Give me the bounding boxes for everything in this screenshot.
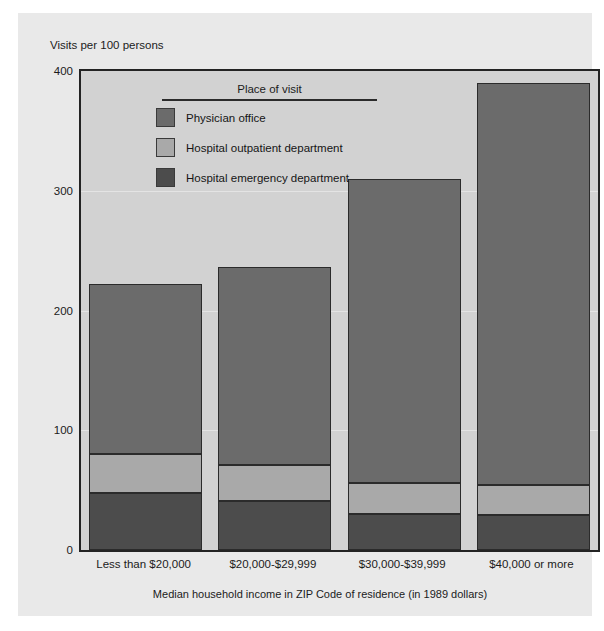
bar-segment [89, 284, 202, 454]
y-axis-tick: 400 [25, 71, 73, 83]
x-axis-tick-label: Less than $20,000 [79, 558, 208, 570]
bar-segment [348, 483, 461, 514]
bar-segment [348, 179, 461, 483]
legend-divider [162, 99, 377, 101]
chart-page: Visits per 100 persons 0100200300400 Pla… [0, 0, 604, 631]
y-axis-tick: 200 [25, 311, 73, 323]
chart-paper-panel: Visits per 100 persons 0100200300400 Pla… [18, 13, 592, 616]
x-axis-tick-label: $30,000-$39,999 [338, 558, 467, 570]
bar-segment [218, 501, 331, 550]
x-axis-title: Median household income in ZIP Code of r… [18, 588, 604, 600]
bar-segment [218, 465, 331, 501]
bar-stack [348, 179, 461, 550]
x-axis-tick-label: $40,000 or more [467, 558, 596, 570]
bar-segment [218, 267, 331, 465]
bar-stack [89, 284, 202, 550]
x-axis-tick-label: $20,000-$29,999 [208, 558, 337, 570]
y-axis-tick-label: 200 [25, 305, 73, 317]
y-axis-tick-label: 100 [25, 424, 73, 436]
bar-segment [477, 515, 590, 550]
plot-area: Place of visit Physician officeHospital … [79, 69, 600, 552]
legend-item: Hospital outpatient department [156, 138, 436, 157]
legend-item-label: Hospital outpatient department [186, 142, 343, 154]
legend-swatch [156, 138, 175, 157]
y-axis-tick: 300 [25, 191, 73, 203]
legend-item: Hospital emergency department [156, 168, 436, 187]
y-axis-tick-label: 300 [25, 185, 73, 197]
legend-item: Physician office [156, 108, 436, 127]
x-axis-tick-labels: Less than $20,000$20,000-$29,999$30,000-… [79, 558, 600, 576]
y-axis-tick-label: 400 [25, 65, 73, 77]
bar-stack [477, 83, 590, 550]
legend-title: Place of visit [162, 83, 377, 95]
chart-legend: Place of visit Physician officeHospital … [156, 83, 436, 198]
legend-swatch [156, 168, 175, 187]
y-axis-tick: 100 [25, 430, 73, 442]
bar-segment [477, 83, 590, 485]
legend-item-label: Hospital emergency department [186, 172, 349, 184]
bar-segment [348, 514, 461, 550]
legend-swatch [156, 108, 175, 127]
bar-segment [477, 485, 590, 515]
bar-segment [89, 454, 202, 492]
y-axis-title: Visits per 100 persons [50, 39, 164, 51]
legend-rows: Physician officeHospital outpatient depa… [156, 108, 436, 187]
legend-item-label: Physician office [186, 112, 266, 124]
y-axis-tick-label: 0 [25, 544, 73, 556]
y-axis-tick-labels: 0100200300400 [25, 69, 73, 552]
bar-stack [218, 267, 331, 550]
y-axis-tick: 0 [25, 550, 73, 562]
bar-segment [89, 493, 202, 550]
